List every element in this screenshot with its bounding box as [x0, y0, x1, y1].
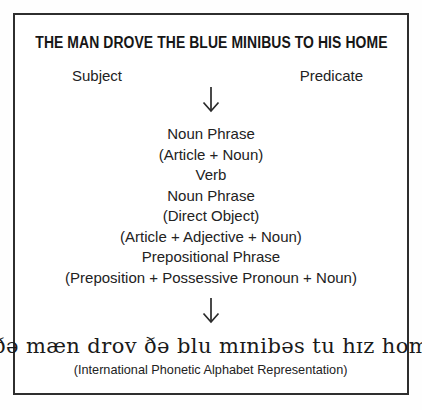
structure-line: (Article + Adjective + Noun): [65, 227, 357, 248]
structure-line: (Preposition + Possessive Pronoun + Noun…: [65, 268, 357, 289]
structure-line: (Article + Noun): [65, 145, 357, 166]
role-labels-row: Subject Predicate: [15, 67, 407, 84]
structure-line: Prepositional Phrase: [65, 247, 357, 268]
structure-line: Verb: [65, 165, 357, 186]
structure-line: Noun Phrase: [65, 124, 357, 145]
structure-line: (Direct Object): [65, 206, 357, 227]
down-arrow-icon: [199, 297, 223, 324]
down-arrow-icon: [199, 86, 223, 113]
subject-label: Subject: [72, 67, 122, 84]
sentence-diagram-frame: THE MAN DROVE THE BLUE MINIBUS TO HIS HO…: [13, 13, 409, 395]
ipa-transcription: [ðə mæn drov ðə blu mɪnibəs tu hɪz hom]: [0, 331, 422, 361]
predicate-label: Predicate: [300, 67, 363, 84]
ipa-caption: (International Phonetic Alphabet Represe…: [74, 361, 348, 379]
sentence-title: THE MAN DROVE THE BLUE MINIBUS TO HIS HO…: [35, 34, 387, 52]
structure-line: Noun Phrase: [65, 186, 357, 207]
page: THE MAN DROVE THE BLUE MINIBUS TO HIS HO…: [0, 0, 422, 410]
structure-list: Noun Phrase (Article + Noun) Verb Noun P…: [65, 124, 357, 288]
